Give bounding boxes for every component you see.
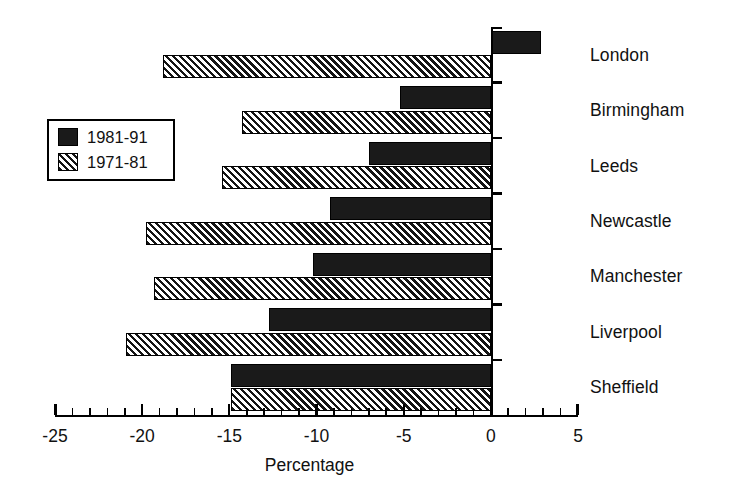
- x-axis-major-tick: [577, 404, 579, 415]
- y-axis-top-cap: [491, 27, 502, 29]
- x-axis-minor-tick: [194, 408, 196, 415]
- x-axis-minor-tick: [351, 408, 353, 415]
- x-axis-minor-tick: [507, 408, 509, 415]
- bar-liverpool-1981-91: [269, 308, 490, 331]
- category-label-liverpool: Liverpool: [590, 322, 662, 343]
- bar-manchester-1981-91: [313, 253, 491, 276]
- y-axis-zero-line: [491, 27, 493, 415]
- bar-london-1971-81: [163, 55, 491, 78]
- x-axis-minor-tick: [298, 408, 300, 415]
- x-axis-tick-label: -20: [130, 426, 155, 447]
- legend-swatch-hatch-icon: [58, 153, 78, 171]
- x-axis-minor-tick: [420, 408, 422, 415]
- x-axis-major-tick: [403, 404, 405, 415]
- bar-sheffield-1981-91: [231, 364, 491, 387]
- x-axis-minor-tick: [438, 408, 440, 415]
- x-axis-minor-tick: [525, 408, 527, 415]
- x-axis-tick-label: -15: [217, 426, 242, 447]
- x-axis-minor-tick: [124, 408, 126, 415]
- x-axis-tick-label: -5: [396, 426, 412, 447]
- x-axis-minor-tick: [263, 408, 265, 415]
- category-label-london: London: [590, 45, 649, 66]
- bar-birmingham-1981-91: [400, 86, 491, 109]
- x-axis-tick-label: -10: [304, 426, 329, 447]
- x-axis-minor-tick: [385, 408, 387, 415]
- x-axis-minor-tick: [333, 408, 335, 415]
- x-axis-tick-label: -25: [42, 426, 67, 447]
- x-axis-minor-tick: [368, 408, 370, 415]
- x-axis-minor-tick: [473, 408, 475, 415]
- x-axis-minor-tick: [246, 408, 248, 415]
- legend-swatch-solid-icon: [58, 128, 78, 146]
- bar-birmingham-1971-81: [242, 111, 491, 134]
- x-axis-minor-tick: [107, 408, 109, 415]
- x-axis-minor-tick: [560, 408, 562, 415]
- x-axis-minor-tick: [281, 408, 283, 415]
- x-axis-minor-tick: [211, 408, 213, 415]
- category-label-birmingham: Birmingham: [590, 100, 684, 121]
- bar-sheffield-1971-81: [231, 388, 491, 411]
- chart-legend: 1981-91 1971-81: [47, 119, 175, 181]
- bar-liverpool-1971-81: [126, 333, 490, 356]
- x-axis-major-tick: [490, 404, 492, 415]
- x-axis-minor-tick: [542, 408, 544, 415]
- legend-label-1981-91: 1981-91: [87, 129, 148, 146]
- x-axis-tick-label: 5: [573, 426, 583, 447]
- bar-london-1981-91: [491, 31, 542, 54]
- category-label-leeds: Leeds: [590, 156, 638, 177]
- x-axis-major-tick: [315, 404, 317, 415]
- x-axis-line: [55, 415, 578, 417]
- x-axis-minor-tick: [455, 408, 457, 415]
- plot-area: LondonBirminghamLeedsNewcastleManchester…: [0, 0, 739, 489]
- x-axis-minor-tick: [159, 408, 161, 415]
- bar-chart: LondonBirminghamLeedsNewcastleManchester…: [0, 0, 739, 489]
- legend-entry-1971-81: 1971-81: [58, 153, 148, 171]
- x-axis-minor-tick: [89, 408, 91, 415]
- x-axis-major-tick: [54, 404, 56, 415]
- x-axis-minor-tick: [176, 408, 178, 415]
- legend-entry-1981-91: 1981-91: [58, 128, 148, 146]
- x-axis-major-tick: [228, 404, 230, 415]
- x-axis-title: Percentage: [265, 455, 355, 476]
- bar-leeds-1981-91: [369, 142, 491, 165]
- bar-newcastle-1971-81: [146, 222, 491, 245]
- bar-manchester-1971-81: [154, 277, 490, 300]
- category-label-manchester: Manchester: [590, 266, 682, 287]
- bar-newcastle-1981-91: [330, 197, 490, 220]
- category-label-sheffield: Sheffield: [590, 377, 659, 398]
- x-axis-tick-label: 0: [486, 426, 496, 447]
- category-label-newcastle: Newcastle: [590, 211, 672, 232]
- x-axis-major-tick: [141, 404, 143, 415]
- x-axis-minor-tick: [72, 408, 74, 415]
- bar-leeds-1971-81: [222, 166, 490, 189]
- legend-label-1971-81: 1971-81: [87, 154, 148, 171]
